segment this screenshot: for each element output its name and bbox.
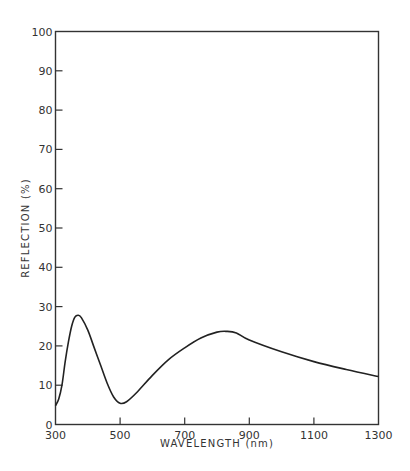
y-tick-label: 10 [39,379,53,392]
reflection-curve [56,315,379,405]
y-tick-label: 20 [39,340,53,353]
y-axis-ticks: 0102030405060708090100 [32,26,63,432]
y-tick-label: 70 [39,143,53,156]
y-tick-label: 100 [32,26,53,39]
x-tick-label: 1300 [365,429,393,442]
y-tick-label: 90 [39,65,53,78]
x-tick-label: 300 [45,429,66,442]
y-axis-title: REFLECTION (%) [20,178,31,278]
y-tick-label: 60 [39,183,53,196]
y-tick-label: 80 [39,104,53,117]
y-tick-label: 50 [39,222,53,235]
y-tick-label: 40 [39,261,53,274]
x-tick-label: 1100 [300,429,328,442]
reflection-chart: 0102030405060708090100 30050070090011001… [0,0,410,471]
y-tick-label: 30 [39,301,53,314]
x-axis-title: WAVELENGTH (nm) [160,438,274,449]
x-tick-label: 500 [110,429,131,442]
